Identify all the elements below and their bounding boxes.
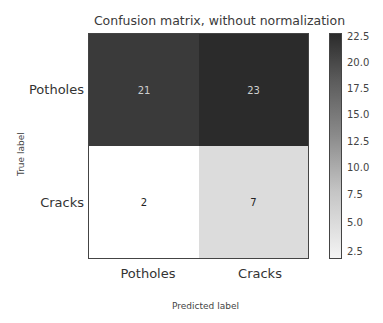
chart-title: Confusion matrix, without normalization [0, 13, 383, 28]
cell-value: 2 [141, 197, 147, 208]
colorbar-tick: 10.0 [347, 163, 369, 173]
colorbar [329, 33, 342, 259]
cell-potholes-cracks: 23 [199, 34, 308, 146]
colorbar-tick: 7.5 [347, 190, 363, 200]
cell-cracks-cracks: 7 [199, 146, 308, 258]
x-tick-cracks: Cracks [205, 266, 315, 281]
x-axis-title-text: Predicted label [172, 301, 239, 311]
cell-potholes-potholes: 21 [89, 34, 199, 146]
colorbar-tick: 15.0 [347, 110, 369, 120]
colorbar-tick: 2.5 [347, 247, 363, 257]
chart-title-text: Confusion matrix, without normalization [94, 13, 345, 28]
x-tick-potholes: Potholes [93, 266, 203, 281]
colorbar-tick: 5.0 [347, 218, 363, 228]
y-tick-potholes: Potholes [4, 82, 84, 97]
colorbar-tick: 20.0 [347, 58, 369, 68]
cell-value: 23 [247, 85, 260, 96]
cell-value: 7 [250, 197, 256, 208]
x-axis-title: Predicted label [0, 301, 383, 311]
confusion-matrix: 21 23 2 7 [88, 33, 309, 259]
cell-cracks-potholes: 2 [89, 146, 199, 258]
cell-value: 21 [138, 85, 151, 96]
colorbar-tick: 12.5 [347, 137, 369, 147]
colorbar-tick: 17.5 [347, 84, 369, 94]
y-axis-title: True label [16, 132, 26, 176]
y-tick-cracks: Cracks [4, 195, 84, 210]
colorbar-tick: 22.5 [347, 32, 369, 42]
